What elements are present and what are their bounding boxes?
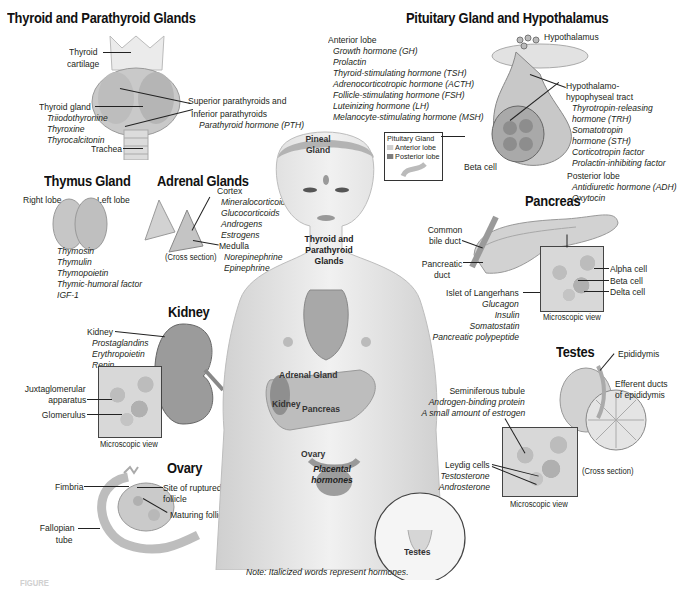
body-thyroid-label: Thyroid andParathyroidGlands [298,233,361,266]
pituitary-section-title: Pituitary Gland and Hypothalamus [406,9,608,26]
hormone-label: IGF-1 [57,289,79,300]
hormone-label: Prolactin-inhibiting factor [572,157,666,168]
juxtaglomerular-label-2: apparatus [48,394,86,405]
body-testes-label: Testes [404,546,430,557]
hormone-label: Melanocyte-stimulating hormone (MSH) [333,111,484,122]
figure-caption: FIGURE [20,578,49,588]
leader-line [87,414,122,415]
leader-line [137,487,163,488]
hormone-label: Androgen-binding protein [429,396,525,407]
hormone-label: hormone (TRH) [572,113,631,124]
seminiferous-tubule-label: Seminiferous tubule [449,385,525,396]
hormone-label: Adrenocorticotropic hormone (ACTH) [333,78,474,89]
kidney-section-title: Kidney [168,303,209,320]
alpha-cell-label: Alpha cell [610,263,647,274]
fimbria-label: Fimbria [55,481,84,492]
epididymis-label: Epididymis [618,348,659,359]
hormone-label: Thymulin [57,256,92,267]
posterior-lobe-label: Posterior lobe [567,170,620,181]
islet-of-langerhans-label: Islet of Langerhans [446,287,519,298]
note-text: Note: Italicized words represent hormone… [246,566,409,577]
testes-microscopic-view [502,427,578,497]
pineal-gland-label: PinealGland [300,133,336,155]
thymus-section-title: Thymus Gland [44,172,131,189]
thyroid-section-title: Thyroid and Parathyroid Glands [7,9,196,26]
body-kidney-label: Kidney [272,398,301,409]
hormone-label: Thymic-humoral factor [57,278,142,289]
leader-line [103,52,131,53]
beta-cell-label: Beta cell [610,275,643,286]
hormone-label: Erythropoietin [92,348,145,359]
body-pancreas-label: Pancreas [302,403,340,414]
leader-line [84,486,129,487]
trachea-label: Trachea [91,143,122,154]
hormone-label: Antidiuretic hormone (ADH) [572,181,677,192]
thymus-illustration [52,192,108,252]
ruptured-follicle-label-2: follicle [163,493,187,504]
pancreatic-duct-label: Pancreaticduct [420,258,463,280]
tract-label-2: hypophyseal tract [566,91,633,102]
hormone-label: Glucagon [482,298,519,309]
fallopian-tube-label-2: tube [55,534,72,545]
body-adrenal-label: Adrenal Gland [279,369,337,380]
inferior-parathyroids-label: Inferior parathyroids [191,108,267,119]
hormone-label: Pancreatic polypeptide [432,331,519,342]
leader-line [95,106,143,107]
leader-line [594,268,609,269]
kidney-label: Kidney [87,326,113,337]
leader-line [523,292,540,293]
leydig-cells-label: Leydig cells [445,459,490,470]
micro-caption: Microscopic view [543,312,601,322]
hypothalamus-label: Hypothalamus [544,31,599,42]
superior-parathyroids-label: Superior parathyroids and [188,95,286,106]
hormone-label: Thymosin [57,245,94,256]
common-bile-duct-label: Commonbile duct [426,224,464,246]
leader-line [584,291,609,292]
testes-section-title: Testes [556,343,594,360]
hormone-label: Thymopoietin [57,267,108,278]
efferent-ducts-label: Efferent ducts [615,378,668,389]
juxtaglomerular-label: Juxtaglomerular [25,383,86,394]
hormone-label: Thyrotropin-releasing [572,102,653,113]
thyroid-gland-label: Thyroid gland [39,101,91,112]
hormone-label: Androsterone [439,481,490,492]
tract-label: Hypothalamo- [566,80,619,91]
leader-line [78,528,100,529]
hormone-label: Prolactin [333,56,366,67]
thyroid-cartilage-label: Thyroid [69,46,98,57]
anterior-lobe-label: Anterior lobe [328,34,376,45]
hormone-label: Follicle-stimulating hormone (FSH) [333,89,465,100]
hormone-label: Corticotropin factor [572,146,644,157]
hormone-label: Luteinizing hormone (LH) [333,100,429,111]
hormone-label: Thyroxine [47,123,85,134]
pancreas-microscopic-view [540,246,604,312]
thyroid-cartilage-label-2: cartilage [67,58,99,69]
leader-line [87,399,112,400]
hormone-label: hormone (STH) [572,135,631,146]
hormone-label: A small amount of estrogen [421,407,525,418]
kidney-microscopic-view [98,366,162,438]
glomerulus-label: Glomerulus [42,409,86,420]
cross-section-caption: (Cross section) [165,252,216,262]
hormone-label: Triiodothyronine [47,112,108,123]
leader-line [578,280,609,281]
micro-caption: Microscopic view [510,499,568,509]
hormone-label: Somatostatin [469,320,519,331]
hormone-label: Thyroid-stimulating hormone (TSH) [333,67,467,78]
hormone-label: Insulin [494,309,519,320]
delta-cell-label: Delta cell [610,286,645,297]
efferent-ducts-label-2: of epididymis [615,389,665,400]
leader-line [463,262,483,263]
hormone-label: Parathyroid hormone (PTH) [199,119,304,130]
micro-caption: Microscopic view [100,439,158,449]
fallopian-tube-label: Fallopian [40,522,75,533]
leader-line [567,235,568,248]
leader-line [123,148,143,149]
hormone-label: Growth hormone (GH) [333,45,418,56]
beta-cell-label: Beta cell [464,161,497,172]
hormone-label: Somatotropin [572,124,623,135]
body-placental-label: Placentalhormones [305,463,359,485]
cross-section-caption: (Cross section) [582,466,633,476]
hormone-label: Prostaglandins [92,337,149,348]
body-ovary-label: Ovary [301,448,325,459]
